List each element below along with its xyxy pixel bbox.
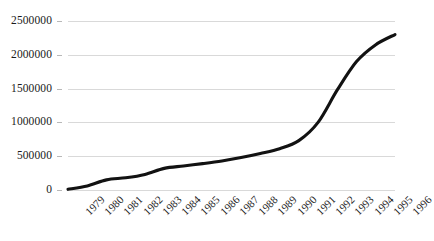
y-axis-labels: 05000001000000150000020000002500000 — [0, 21, 62, 190]
x-axis-tick-label: 1989 — [276, 194, 299, 217]
y-axis-tick — [57, 55, 62, 56]
x-axis-tick-label: 1993 — [353, 194, 376, 217]
y-axis-tick-label: 2500000 — [11, 15, 52, 27]
x-axis-tick-label: 1985 — [199, 194, 222, 217]
y-axis-tick — [57, 156, 62, 157]
y-axis-tick-label: 500000 — [17, 150, 52, 162]
series-line-path — [68, 35, 395, 190]
y-axis-tick — [57, 122, 62, 123]
x-axis-tick-label: 1990 — [295, 194, 318, 217]
y-axis-tick — [57, 89, 62, 90]
y-axis-tick-label: 2000000 — [11, 49, 52, 61]
series-line-chart — [68, 21, 395, 190]
x-axis-tick-label: 1981 — [122, 194, 145, 217]
x-axis-tick-label: 1994 — [372, 194, 395, 217]
plot-area — [68, 21, 395, 190]
y-axis-tick — [57, 21, 62, 22]
x-axis-labels: 1979198019811982198319841985198619871988… — [68, 190, 395, 241]
y-axis-tick-label: 1500000 — [11, 83, 52, 95]
y-axis-tick-label: 1000000 — [11, 117, 52, 129]
x-axis-tick-label: 1996 — [410, 194, 433, 217]
y-axis-tick — [57, 190, 62, 191]
y-axis-tick-label: 0 — [46, 184, 52, 196]
x-axis-tick-label: 1986 — [218, 194, 241, 217]
